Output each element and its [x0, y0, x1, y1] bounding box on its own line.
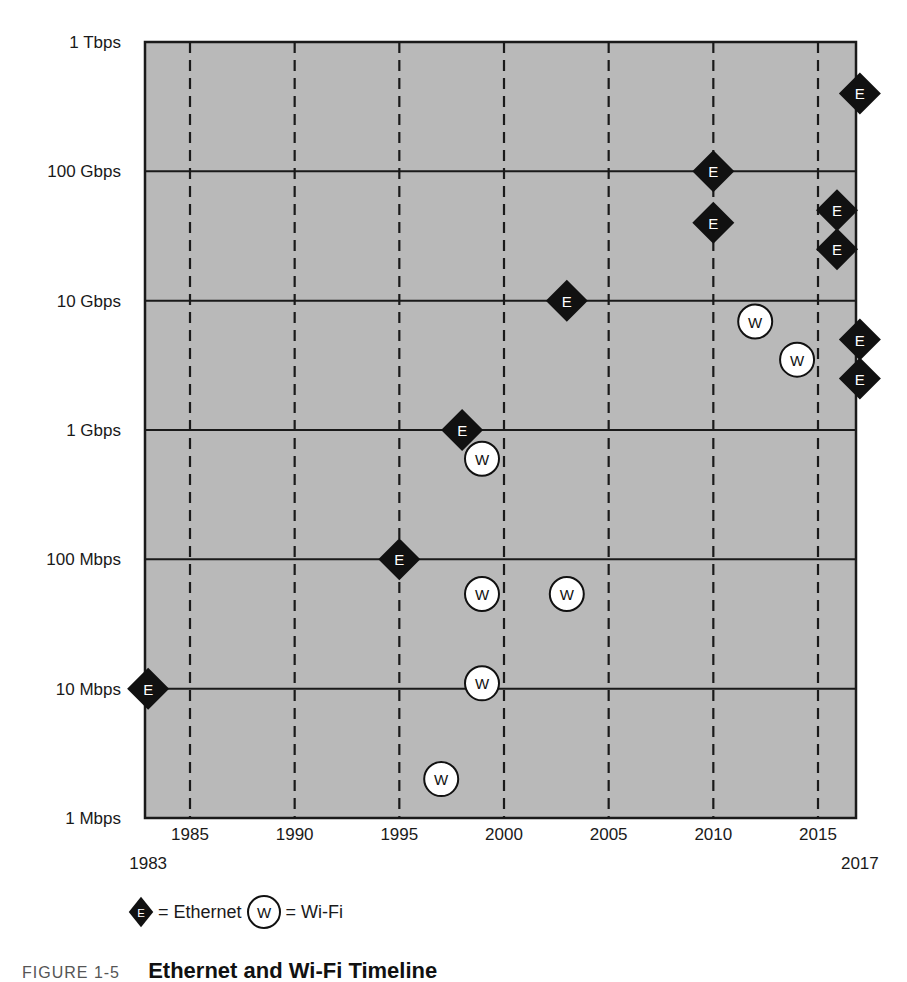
svg-text:E: E	[832, 202, 842, 219]
svg-text:E: E	[562, 293, 572, 310]
wifi-marker: W	[738, 305, 772, 339]
wifi-circle-icon: W	[246, 894, 282, 930]
x-tick-label-endpoint: 2017	[841, 854, 879, 873]
y-tick-label: 100 Mbps	[46, 550, 121, 569]
wifi-marker: W	[465, 442, 499, 476]
svg-text:E: E	[855, 85, 865, 102]
x-tick-label: 1985	[171, 825, 209, 844]
wifi-marker: W	[465, 577, 499, 611]
y-tick-label: 100 Gbps	[47, 162, 121, 181]
y-tick-label: 10 Mbps	[56, 680, 121, 699]
svg-text:W: W	[475, 586, 490, 603]
wifi-marker: W	[424, 762, 458, 796]
svg-text:E: E	[394, 551, 404, 568]
svg-text:E: E	[137, 907, 145, 919]
svg-text:W: W	[790, 352, 805, 369]
svg-text:E: E	[855, 371, 865, 388]
legend-ethernet-label: = Ethernet	[158, 902, 242, 923]
y-tick-label: 1 Mbps	[65, 809, 121, 828]
x-tick-label: 1995	[380, 825, 418, 844]
svg-text:E: E	[457, 422, 467, 439]
y-tick-label: 1 Gbps	[66, 421, 121, 440]
svg-text:E: E	[708, 215, 718, 232]
figure-number: FIGURE 1-5	[22, 964, 120, 981]
svg-text:E: E	[708, 163, 718, 180]
legend: E = Ethernet W = Wi-Fi	[128, 892, 347, 932]
legend-wifi-label: = Wi-Fi	[286, 902, 344, 923]
svg-text:W: W	[748, 314, 763, 331]
svg-text:W: W	[475, 675, 490, 692]
timeline-chart: 1 Tbps100 Gbps10 Gbps1 Gbps100 Mbps10 Mb…	[0, 0, 907, 900]
wifi-marker: W	[465, 666, 499, 700]
x-tick-label-endpoint: 1983	[129, 854, 167, 873]
svg-text:W: W	[434, 771, 449, 788]
svg-text:W: W	[256, 904, 271, 921]
y-tick-label: 10 Gbps	[57, 292, 121, 311]
svg-text:E: E	[143, 681, 153, 698]
wifi-marker: W	[780, 343, 814, 377]
y-axis-labels: 1 Tbps100 Gbps10 Gbps1 Gbps100 Mbps10 Mb…	[46, 33, 121, 828]
svg-text:E: E	[832, 241, 842, 258]
svg-text:W: W	[560, 586, 575, 603]
svg-text:E: E	[855, 332, 865, 349]
wifi-marker: W	[550, 577, 584, 611]
figure-title: Ethernet and Wi-Fi Timeline	[148, 958, 437, 982]
x-tick-label: 2010	[694, 825, 732, 844]
x-tick-label: 1990	[276, 825, 314, 844]
x-tick-label: 2000	[485, 825, 523, 844]
x-axis-labels: 198519901995200020052010201519832017	[129, 825, 879, 873]
figure-caption: FIGURE 1-5 Ethernet and Wi-Fi Timeline	[22, 958, 437, 982]
y-tick-label: 1 Tbps	[69, 33, 121, 52]
x-tick-label: 2005	[590, 825, 628, 844]
ethernet-diamond-icon: E	[128, 892, 154, 932]
x-tick-label: 2015	[799, 825, 837, 844]
svg-text:W: W	[475, 451, 490, 468]
